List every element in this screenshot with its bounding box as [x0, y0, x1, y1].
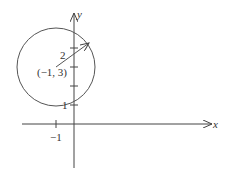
- x-axis-label: x: [212, 118, 218, 130]
- y-tick-label-1: 1: [62, 99, 68, 111]
- y-axis-label: y: [76, 8, 82, 20]
- radius-label: 2: [60, 49, 66, 61]
- x-tick-label-minus-1: −1: [50, 131, 62, 143]
- center-label: (−1, 3): [37, 66, 67, 79]
- circle-diagram: y x 2 (−1, 3) 1 −1: [0, 0, 225, 170]
